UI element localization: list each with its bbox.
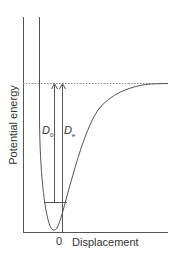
x-origin-tick-label: 0	[56, 235, 62, 247]
d0-label-sub: 0	[50, 132, 53, 138]
d0-label: D0	[42, 124, 53, 138]
de-label-sub: e	[72, 132, 75, 138]
potential-energy-curve	[40, 17, 169, 230]
y-axis-label: Potential energy	[7, 85, 19, 165]
potential-energy-diagram	[0, 0, 175, 268]
de-label-main: D	[64, 124, 72, 136]
de-label: De	[64, 124, 75, 138]
x-axis-label: Displacement	[72, 236, 139, 248]
d0-label-main: D	[42, 124, 50, 136]
